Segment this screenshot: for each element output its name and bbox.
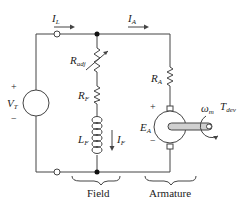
if-arrow-icon <box>110 130 115 151</box>
vt-plus: + <box>11 81 17 92</box>
ia-label: IA <box>127 12 137 26</box>
shunt-motor-circuit: + VT − IL IA Radj RF LF IF RA <box>0 0 242 205</box>
armature-group-label: Armature <box>149 187 191 199</box>
field-group-label: Field <box>87 187 110 199</box>
terminal-top <box>54 31 60 37</box>
ra-label: RA <box>150 72 163 86</box>
ea-label: EA <box>139 121 152 135</box>
armature-brace-icon <box>145 176 196 185</box>
node-top <box>95 32 100 37</box>
field-resistor-icon <box>94 86 100 104</box>
vt-label: VT <box>7 97 19 111</box>
voltage-source-icon <box>23 90 49 116</box>
torque-label: Tdev <box>220 100 237 114</box>
lf-label: LF <box>77 133 89 147</box>
adj-arrow-icon <box>86 51 108 70</box>
vt-minus: − <box>11 113 17 124</box>
il-label: IL <box>51 12 60 26</box>
if-label: IF <box>116 133 126 147</box>
field-brace-icon <box>72 176 120 185</box>
node-bottom <box>95 170 100 175</box>
omega-label: ωm <box>201 102 214 116</box>
field-inductor-icon <box>92 117 102 154</box>
terminal-bottom <box>54 169 60 175</box>
ea-plus: + <box>150 101 156 112</box>
rf-label: RF <box>77 89 90 103</box>
radj-label: Radj <box>69 54 86 68</box>
ea-minus: − <box>150 135 156 146</box>
armature-resistor-icon <box>167 67 173 86</box>
